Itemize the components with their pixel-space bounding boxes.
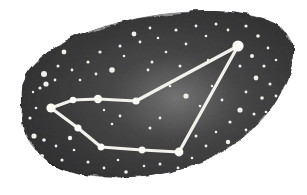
constellation-star-inner-upper: upper chain inner [70, 97, 76, 103]
sky-canvas: apex starupper chain junctionupper chain… [0, 0, 307, 195]
constellation-star-lower-left: lower chain left [98, 144, 105, 151]
background-star [254, 76, 259, 81]
background-star [260, 96, 264, 100]
background-star [98, 50, 101, 53]
background-star [267, 47, 270, 50]
background-star [211, 85, 213, 87]
background-star [228, 120, 231, 123]
background-star [195, 135, 198, 138]
background-star [179, 65, 182, 68]
background-star [151, 61, 154, 64]
background-star [132, 32, 137, 37]
constellation-illustration: apex starupper chain junctionupper chain… [0, 0, 307, 195]
background-star [215, 131, 218, 134]
sky-patch-group [22, 11, 293, 178]
background-star [177, 167, 180, 170]
background-star [86, 60, 89, 63]
background-star [103, 167, 106, 170]
background-star [191, 157, 194, 160]
background-star [111, 123, 114, 126]
background-star [250, 54, 254, 58]
background-star [185, 43, 188, 46]
background-star [60, 158, 63, 161]
background-star [31, 133, 36, 138]
background-star [87, 161, 90, 164]
background-star [195, 25, 198, 28]
constellation-star-lower-mid: lower chain middle [139, 147, 146, 154]
background-star [253, 113, 256, 116]
background-star [35, 107, 38, 110]
background-star [147, 69, 150, 72]
background-star [237, 107, 242, 112]
background-star [239, 65, 242, 68]
background-star [79, 79, 82, 82]
background-star [165, 51, 168, 54]
background-star [43, 81, 48, 86]
background-star [256, 34, 260, 38]
background-star [159, 117, 162, 120]
background-star [57, 65, 60, 68]
constellation-star-west-vertex: western vertex star [46, 103, 55, 112]
sky-interior [22, 11, 293, 178]
constellation-line-mid-upper-to-junction [98, 99, 136, 101]
background-star [68, 136, 72, 140]
background-star [244, 24, 247, 27]
background-star [103, 109, 105, 111]
background-star [139, 41, 142, 44]
background-star [28, 116, 31, 119]
background-star [123, 55, 126, 58]
background-star [40, 154, 44, 158]
background-star [169, 85, 172, 88]
background-star [275, 59, 278, 62]
background-star [42, 138, 46, 142]
constellation-star-south-vertex: southern vertex star [175, 148, 184, 157]
background-star [226, 140, 230, 144]
background-star [119, 115, 122, 118]
background-star [38, 86, 41, 89]
background-star [149, 27, 152, 30]
constellation-star-junction: upper chain junction [132, 97, 139, 104]
background-star [124, 170, 128, 174]
background-star [119, 45, 122, 48]
background-star [62, 50, 67, 55]
background-star [71, 69, 74, 72]
constellation-line-lower-mid-to-south-vertex [142, 150, 179, 152]
background-star [73, 149, 76, 152]
background-star [143, 165, 146, 168]
background-star [109, 67, 115, 73]
background-star [245, 91, 248, 94]
background-star [149, 127, 152, 130]
background-star [32, 91, 34, 93]
background-star [183, 93, 188, 98]
background-star [29, 147, 32, 150]
sky-texture-overlay [22, 11, 293, 178]
background-star [159, 163, 162, 166]
background-star [54, 79, 57, 82]
background-star [265, 111, 268, 114]
background-star [199, 105, 202, 108]
background-star [269, 83, 272, 86]
background-star [41, 71, 47, 77]
background-star [275, 95, 278, 98]
background-star [95, 73, 98, 76]
constellation-star-apex: apex star [232, 40, 243, 51]
background-star [205, 35, 208, 38]
background-star [157, 37, 160, 40]
background-star [245, 129, 248, 132]
background-star [174, 28, 177, 31]
background-star [117, 159, 120, 162]
background-star [55, 145, 58, 148]
constellation-star-mid-upper: upper chain middle [94, 95, 102, 103]
background-star [262, 64, 265, 67]
background-star [205, 145, 208, 148]
background-star [215, 23, 218, 26]
background-star [227, 29, 230, 32]
background-star [221, 99, 224, 102]
constellation-star-lower-inner: lower chain inner [74, 124, 81, 131]
